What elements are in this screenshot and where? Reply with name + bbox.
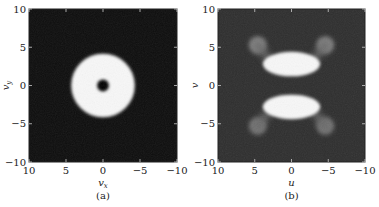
noise-texture <box>29 9 177 162</box>
y-tick-label: 0 <box>20 80 26 91</box>
x-tick-label: 5 <box>252 165 258 176</box>
x-tick-label: −5 <box>321 165 336 176</box>
x-tick-label: −10 <box>166 165 187 176</box>
y-tick-label: −10 <box>194 157 215 168</box>
heatmap-area <box>29 9 177 162</box>
noise-texture <box>218 9 365 162</box>
x-tick-label: −5 <box>133 165 148 176</box>
y-tick-label: 10 <box>13 4 26 15</box>
y-tick-label: 5 <box>20 42 26 53</box>
x-tick-label: −10 <box>354 165 375 176</box>
y-tick-label: −10 <box>5 157 26 168</box>
y-tick-label: 0 <box>209 80 215 91</box>
y-axis-label: v <box>189 82 200 88</box>
y-tick-label: −5 <box>11 118 26 129</box>
x-axis-label: u <box>288 177 294 188</box>
y-axis-label: vy <box>0 80 13 91</box>
x-tick-label: 0 <box>100 165 106 176</box>
panel-b: 1050−5−10−10−50510uv(b) <box>189 4 376 202</box>
y-tick-label: −5 <box>200 118 215 129</box>
panel-a: 1050−5−10−10−50510vxvy(a) <box>0 4 188 202</box>
heatmap-area <box>218 9 365 162</box>
y-axis-label-subscript: y <box>5 80 13 86</box>
x-tick-label: 5 <box>63 165 69 176</box>
x-axis-label-subscript: x <box>104 182 108 190</box>
y-tick-label: 5 <box>209 42 215 53</box>
figure: 1050−5−10−10−50510vxvy(a) 1050−5−10−10−5… <box>0 0 379 207</box>
panel-caption: (a) <box>96 190 110 201</box>
y-tick-label: 10 <box>202 4 215 15</box>
x-axis-label: vx <box>98 177 108 190</box>
x-tick-label: 0 <box>288 165 294 176</box>
panel-caption: (b) <box>284 190 298 201</box>
